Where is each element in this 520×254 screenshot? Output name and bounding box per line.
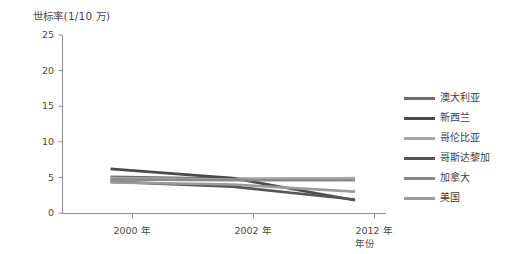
legend-item[interactable]: 美国 — [404, 188, 520, 208]
y-tick-label: 20 — [28, 65, 54, 76]
legend-label: 加拿大 — [440, 173, 470, 183]
legend-label: 美国 — [440, 193, 460, 203]
legend-swatch — [404, 177, 435, 180]
legend-swatch — [404, 137, 435, 140]
x-axis-title: 年份 — [355, 236, 375, 250]
legend-item[interactable]: 澳大利亚 — [404, 88, 520, 108]
legend-item[interactable]: 哥伦比亚 — [404, 128, 520, 148]
y-tick-label: 5 — [28, 172, 54, 183]
x-axis-ticks — [133, 214, 375, 219]
chart-figure: 世标率(1/10 万) 25 20 15 10 5 0 2000 年 200 — [0, 0, 520, 254]
legend-label: 澳大利亚 — [440, 93, 480, 103]
y-axis-ticks — [59, 35, 63, 213]
y-tick-label: 15 — [28, 100, 54, 111]
legend-swatch — [404, 97, 435, 100]
x-tick-label: 2000 年 — [97, 223, 167, 237]
y-tick-label: 0 — [28, 207, 54, 218]
legend-label: 哥伦比亚 — [440, 133, 480, 143]
x-tick-label: 2002 年 — [218, 223, 288, 237]
legend-item[interactable]: 加拿大 — [404, 168, 520, 188]
legend-swatch — [404, 197, 435, 200]
y-tick-label: 10 — [28, 136, 54, 147]
y-tick-label: 25 — [28, 29, 54, 40]
x-tick-label: 2012 年 — [339, 223, 409, 237]
legend-swatch — [404, 157, 435, 160]
legend-label: 哥斯达黎加 — [440, 153, 490, 163]
series-line — [111, 180, 356, 181]
chart-legend: 澳大利亚新西兰哥伦比亚哥斯达黎加加拿大美国 — [404, 88, 520, 208]
legend-label: 新西兰 — [440, 113, 470, 123]
legend-item[interactable]: 新西兰 — [404, 108, 520, 128]
series-lines — [111, 169, 356, 200]
legend-item[interactable]: 哥斯达黎加 — [404, 148, 520, 168]
legend-swatch — [404, 117, 435, 120]
